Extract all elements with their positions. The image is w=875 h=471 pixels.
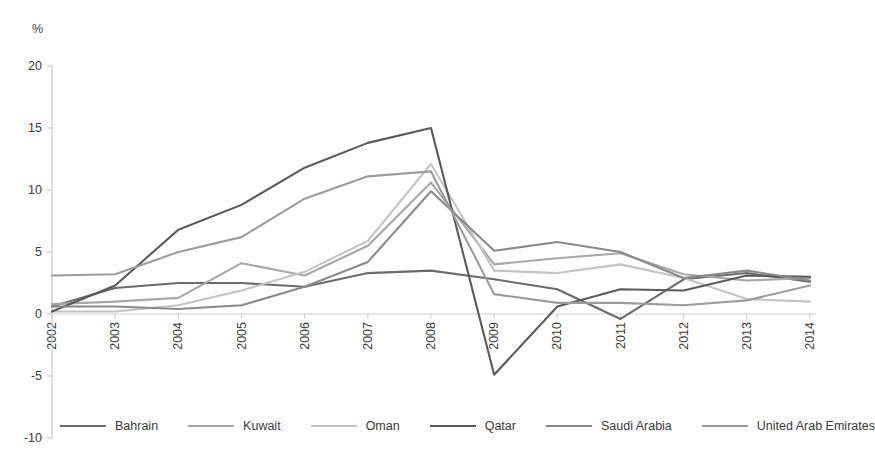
legend-line-swatch [311,425,357,427]
legend-label: Qatar [485,419,516,433]
legend-line-swatch [546,425,592,427]
legend-label: Kuwait [243,419,281,433]
series-line-saudi-arabia [52,191,810,309]
legend-item-saudi-arabia[interactable]: Saudi Arabia [546,419,672,433]
legend-label: Bahrain [115,419,158,433]
legend-line-swatch [430,425,476,427]
legend-label: Saudi Arabia [601,419,672,433]
legend-line-swatch [702,425,748,427]
legend-item-united-arab-emirates[interactable]: United Arab Emirates [702,419,875,433]
series-line-oman [52,164,810,312]
legend-item-bahrain[interactable]: Bahrain [60,419,158,433]
series-line-bahrain [52,271,810,319]
legend-label: Oman [366,419,400,433]
legend-item-qatar[interactable]: Qatar [430,419,516,433]
chart-legend: BahrainKuwaitOmanQatarSaudi ArabiaUnited… [60,413,820,439]
legend-item-oman[interactable]: Oman [311,419,400,433]
legend-line-swatch [60,425,106,427]
legend-label: United Arab Emirates [757,419,875,433]
legend-line-swatch [188,425,234,427]
series-line-kuwait [52,183,810,305]
legend-item-kuwait[interactable]: Kuwait [188,419,281,433]
